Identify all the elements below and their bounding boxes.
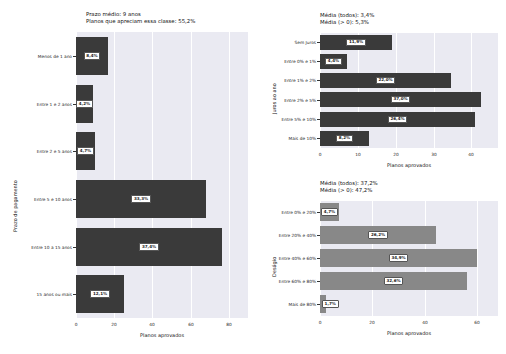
ytick-entre-0-e-20: Entre 0% e 20%: [258, 210, 316, 215]
ytick-mais-de-80: Mais de 80%: [258, 302, 316, 307]
ytick-mark: [73, 199, 76, 200]
xtick-40: 40: [468, 152, 473, 157]
bar-entre-0-e-20: 4,7%: [320, 203, 339, 221]
bar-entre-0-e-1: 4,4%: [320, 54, 347, 69]
bar-sem-juros: 11,9%: [320, 35, 392, 50]
bar-value-label: 4,4%: [325, 58, 342, 65]
ytick-mark: [73, 104, 76, 105]
ytick-entre-40-e-60: Entre 40% e 60%: [258, 256, 316, 261]
ytick-entre-20-e-40: Entre 20% e 40%: [258, 233, 316, 238]
xtick-40: 40: [422, 320, 427, 325]
chart-panel-desagio: Média (todos): 37,2% Média (> 0): 47,2% …: [258, 177, 506, 354]
ytick-mark: [73, 56, 76, 57]
chart-panel-prazo-pagamento: Prazo médio: 9 anos Planos que apreciam …: [0, 0, 258, 354]
chart-panel-juros-ao-ano: Média (todos): 3,4% Média (> 0): 5,3% 11…: [258, 0, 506, 177]
yaxis-title-prazo-pagamento: Prazo de pagamento: [12, 180, 18, 232]
xaxis-title-juros-ao-ano: Planos aprovados: [320, 162, 498, 168]
ytick-entre-60-e-80: Entre 60% e 80%: [258, 279, 316, 284]
xtick-60: 60: [188, 322, 193, 327]
xtick-0: 0: [319, 152, 322, 157]
chart-title-line-2: Média (> 0): 47,2%: [320, 187, 378, 194]
bar-mais-de-80: 1,7%: [320, 295, 326, 313]
chart-title-desagio: Média (todos): 37,2% Média (> 0): 47,2%: [320, 180, 378, 195]
chart-title-line-2: Média (> 0): 5,3%: [320, 19, 374, 26]
gridline-x-40: [152, 32, 153, 318]
gridline-x-20: [396, 33, 397, 148]
bar-menos-de-1-ano: 8,4%: [76, 37, 108, 75]
bar-value-label: 12,1%: [90, 290, 109, 297]
ytick-mark: [317, 42, 320, 43]
plot-area-juros-ao-ano: 11,9% 4,4% 22,0% 37,0% 26,4% 8,2%: [320, 33, 498, 148]
ytick-mark: [317, 100, 320, 101]
bar-value-label: 37,4%: [139, 243, 158, 250]
yaxis-title-desagio: Deságio: [271, 257, 277, 277]
xtick-10: 10: [355, 152, 360, 157]
ytick-mark: [73, 151, 76, 152]
plot-area-desagio: 4,7% 26,2% 34,9% 32,6% 1,7%: [320, 201, 498, 316]
bar-value-label: 32,6%: [384, 277, 403, 284]
xtick-80: 80: [226, 322, 231, 327]
bar-value-label: 26,2%: [368, 231, 387, 238]
chart-title-prazo-pagamento: Prazo médio: 9 anos Planos que apreciam …: [86, 11, 195, 26]
ytick-mark: [317, 119, 320, 120]
ytick-entre-1-e-2-anos: Entre 1 e 2 anos: [0, 102, 72, 107]
bar-value-label: 4,7%: [77, 147, 94, 154]
ytick-entre-5-e-10-anos: Entre 5 e 10 anos: [0, 197, 72, 202]
ytick-sem-juros: Sem Juros: [258, 40, 316, 45]
bar-value-label: 26,4%: [388, 116, 407, 123]
bar-value-label: 4,2%: [76, 100, 93, 107]
ytick-mark: [317, 258, 320, 259]
bar-value-label: 37,0%: [391, 96, 410, 103]
ytick-mark: [317, 304, 320, 305]
ytick-mark: [73, 294, 76, 295]
bar-entre-1-e-2: 22,0%: [320, 73, 451, 88]
xtick-40: 40: [149, 322, 154, 327]
ytick-entre-1-e-2: Entre 1% e 2%: [258, 78, 316, 83]
xtick-60: 60: [474, 320, 479, 325]
bar-value-label: 22,0%: [376, 77, 395, 84]
ytick-mark: [73, 247, 76, 248]
ytick-mark: [317, 61, 320, 62]
ytick-mark: [317, 212, 320, 213]
xaxis-title-desagio: Planos aprovados: [320, 330, 498, 336]
chart-title-line-2: Planos que apreciam essa classe: 55,2%: [86, 18, 195, 25]
ytick-entre-2-e-5-anos: Entre 2 e 5 anos: [0, 149, 72, 154]
bar-value-label: 8,4%: [84, 52, 101, 59]
ytick-entre-10-a-15-anos: Entre 10 a 15 anos: [0, 245, 72, 250]
yaxis-title-juros-ao-ano: Juros ao ano: [271, 83, 277, 114]
xtick-0: 0: [319, 320, 322, 325]
gridline-x-60: [191, 32, 192, 318]
bar-value-label: 4,7%: [321, 208, 338, 215]
ytick-15-anos-ou-mais: 15 anos ou mais: [0, 292, 72, 297]
ytick-menos-de-1-ano: Menos de 1 ano: [0, 54, 72, 59]
ytick-mark: [317, 80, 320, 81]
xaxis-title-prazo-pagamento: Planos aprovados: [76, 332, 248, 338]
ytick-entre-5-e-10: Entre 5% e 10%: [258, 117, 316, 122]
chart-title-line-1: Média (todos): 37,2%: [320, 180, 378, 187]
chart-title-line-1: Média (todos): 3,4%: [320, 12, 374, 19]
chart-title-juros-ao-ano: Média (todos): 3,4% Média (> 0): 5,3%: [320, 12, 374, 27]
plot-area-prazo-pagamento: 8,4% 4,2% 4,7% 33,3% 37,4% 12,1%: [76, 32, 248, 318]
gridline-x-30: [434, 33, 435, 148]
ytick-entre-0-e-1: Entre 0% e 1%: [258, 59, 316, 64]
bar-entre-10-a-15-anos: 37,4%: [76, 228, 222, 266]
xtick-0: 0: [75, 322, 78, 327]
xtick-20: 20: [111, 322, 116, 327]
ytick-mark: [317, 281, 320, 282]
chart-title-line-1: Prazo médio: 9 anos: [86, 11, 195, 18]
bar-value-label: 11,9%: [346, 39, 365, 46]
xtick-20: 20: [393, 152, 398, 157]
bar-entre-5-e-10-anos: 33,3%: [76, 180, 206, 218]
ytick-mark: [317, 235, 320, 236]
bar-mais-de-10: 8,2%: [320, 131, 369, 146]
bar-entre-1-e-2-anos: 4,2%: [76, 85, 93, 123]
gridline-x-60: [477, 201, 478, 316]
gridline-x-40: [471, 33, 472, 148]
bar-value-label: 33,3%: [131, 195, 150, 202]
xtick-30: 30: [431, 152, 436, 157]
bar-entre-20-e-40: 26,2%: [320, 226, 436, 244]
bar-entre-5-e-10: 26,4%: [320, 112, 475, 127]
figure-canvas: Prazo médio: 9 anos Planos que apreciam …: [0, 0, 506, 354]
ytick-mark: [317, 138, 320, 139]
ytick-mais-de-10: Mais de 10%: [258, 136, 316, 141]
